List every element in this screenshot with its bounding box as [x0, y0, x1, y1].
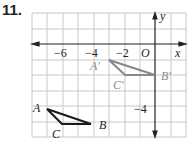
triangle-image	[109, 60, 155, 75]
label-b: B	[99, 118, 107, 132]
tick-x-neg2: −2	[116, 46, 129, 60]
y-axis-label: y	[159, 9, 166, 23]
coordinate-plane: y x O −6 −4 −2 −4 A′ B′ C′ A B C	[0, 0, 195, 147]
label-c: C	[52, 127, 61, 141]
label-a-prime: A′	[89, 59, 100, 73]
origin-label: O	[141, 46, 150, 60]
tick-y-neg4: −4	[134, 102, 147, 116]
tick-x-neg4: −4	[85, 46, 98, 60]
label-b-prime: B′	[161, 69, 171, 83]
x-axis-label: x	[174, 46, 181, 60]
label-c-prime: C′	[113, 78, 124, 92]
tick-x-neg6: −6	[54, 46, 67, 60]
label-a: A	[32, 101, 41, 115]
